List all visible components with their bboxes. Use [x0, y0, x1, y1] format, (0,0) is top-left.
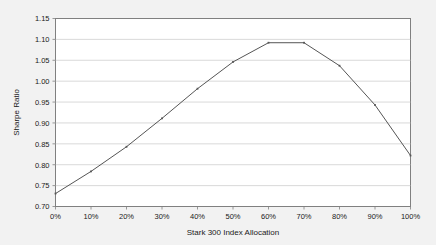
y-tick-label: 1.10 [35, 35, 50, 44]
sharpe-ratio-chart: 1.151.101.051.000.950.900.850.800.750.70… [0, 0, 436, 245]
y-tick-label: 0.90 [35, 119, 50, 128]
y-tick-label: 0.80 [35, 161, 50, 170]
y-tick-label: 0.70 [35, 202, 50, 211]
plot-area [56, 19, 411, 207]
x-tick-label: 50% [225, 212, 240, 221]
x-tick-label: 30% [154, 212, 169, 221]
data-point-marker [161, 117, 163, 119]
x-tick-label: 80% [332, 212, 347, 221]
x-tick-label: 90% [367, 212, 382, 221]
y-tick-label: 0.75 [35, 181, 50, 190]
y-tick-label: 1.05 [35, 56, 50, 65]
data-point-marker [410, 155, 412, 157]
y-tick-label: 0.85 [35, 140, 50, 149]
data-point-marker [197, 88, 199, 90]
chart-canvas: 1.151.101.051.000.950.900.850.800.750.70… [0, 0, 436, 245]
x-tick-label: 10% [83, 212, 98, 221]
data-point-marker [232, 61, 234, 63]
x-tick-label: 100% [401, 212, 421, 221]
x-tick-label: 60% [261, 212, 276, 221]
x-tick-label: 0% [50, 212, 61, 221]
x-tick-label: 70% [296, 212, 311, 221]
data-point-marker [339, 65, 341, 67]
x-axis-title: Stark 300 Index Allocation [187, 228, 280, 237]
x-tick-label: 20% [119, 212, 134, 221]
x-tick-label: 40% [190, 212, 205, 221]
data-point-marker [90, 171, 92, 173]
data-point-marker [55, 193, 57, 195]
y-tick-label: 1.15 [35, 14, 50, 23]
y-tick-label: 1.00 [35, 77, 50, 86]
data-point-marker [374, 104, 376, 106]
data-point-marker [126, 146, 128, 148]
data-point-marker [268, 42, 270, 44]
data-point-marker [303, 42, 305, 44]
y-tick-label: 0.95 [35, 98, 50, 107]
y-axis-title: Sharpe Ratio [12, 89, 21, 136]
